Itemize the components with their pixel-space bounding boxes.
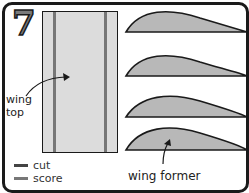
cut-line-icon (14, 164, 28, 167)
arrow-head-icon (63, 73, 70, 81)
legend-cut: cut (14, 159, 50, 172)
wing-former-4 (126, 128, 247, 150)
legend-score: score (14, 172, 63, 185)
wing-formers (126, 12, 247, 150)
wing-former-label: wing former (128, 170, 200, 182)
score-line-icon (14, 177, 28, 180)
legend-score-label: score (33, 172, 63, 185)
legend-cut-label: cut (33, 159, 50, 172)
wing-former-1 (126, 12, 247, 32)
wing-top-arrow (26, 77, 66, 96)
wing-former-2 (126, 56, 247, 76)
wing-former-3 (126, 96, 247, 117)
